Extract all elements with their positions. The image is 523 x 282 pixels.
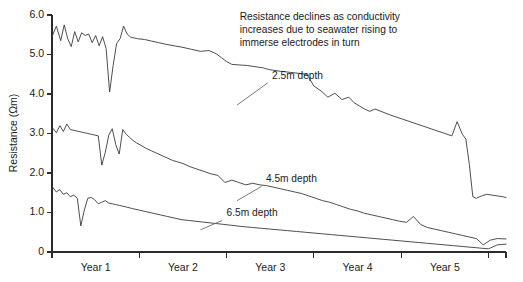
x-tick-label: Year 4: [343, 261, 373, 273]
y-tick-label: 4.0: [29, 87, 44, 99]
y-tick-label: 3.0: [29, 126, 44, 138]
x-tick-label: Year 1: [81, 261, 111, 273]
series-label-3: 6.5m depth: [227, 207, 278, 218]
axis-titles: Resistance (Ωm): [7, 94, 19, 172]
series-lines: [52, 25, 506, 249]
chart-canvas: 01.02.03.04.05.06.0 Year 1Year 2Year 3Ye…: [0, 0, 523, 282]
resistance-note: Resistance declines as conductivityincre…: [240, 11, 401, 48]
series-label-1: 2.5m depth: [272, 70, 323, 81]
series-leader-1: [237, 83, 268, 105]
x-tick-label: Year 2: [168, 261, 198, 273]
axes: [52, 15, 506, 252]
x-tick-label: Year 5: [430, 261, 460, 273]
resistance-chart: 01.02.03.04.05.06.0 Year 1Year 2Year 3Ye…: [0, 0, 523, 282]
series-line-2: [52, 124, 506, 245]
series-label-2: 4.5m depth: [266, 173, 317, 184]
y-tick-label: 5.0: [29, 47, 44, 59]
annotation-line: immerse electrodes in turn: [240, 37, 360, 48]
annotation-line: Resistance declines as conductivity: [240, 11, 401, 22]
y-axis-ticks: 01.02.03.04.05.06.0: [29, 8, 52, 257]
y-axis-title: Resistance (Ωm): [7, 94, 19, 172]
x-tick-label: Year 3: [255, 261, 285, 273]
y-tick-label: 0: [38, 245, 44, 257]
annotation-note: Resistance declines as conductivityincre…: [240, 11, 401, 48]
y-tick-label: 2.0: [29, 166, 44, 178]
series-line-3: [52, 186, 506, 248]
series-leader-2: [237, 186, 261, 200]
y-tick-label: 1.0: [29, 205, 44, 217]
x-axis-ticks: Year 1Year 2Year 3Year 4Year 5: [52, 252, 506, 273]
annotation-line: increases due to seawater rising to: [240, 24, 398, 35]
y-tick-label: 6.0: [29, 8, 44, 20]
